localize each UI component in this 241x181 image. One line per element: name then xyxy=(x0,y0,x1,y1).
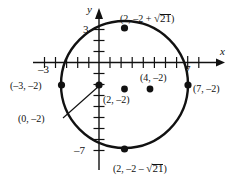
radical-21-top: √21 xyxy=(154,13,171,24)
label-bottom-vertex-suffix: ) xyxy=(163,163,166,174)
point-interior xyxy=(147,86,154,93)
point-bottom-vertex xyxy=(121,145,128,152)
x-tick-label-7: 7 xyxy=(185,64,191,75)
y-tick-label-3: 3 xyxy=(83,24,89,35)
leader-line xyxy=(63,86,99,118)
label-top-vertex: (2, –2 + √21) xyxy=(120,13,174,24)
radical-21-bottom: √21 xyxy=(146,163,163,174)
label-right-vertex: (7, –2) xyxy=(193,84,220,94)
point-left-vertex xyxy=(58,81,65,88)
label-bottom-vertex-prefix: (2, –2 – xyxy=(113,163,146,174)
label-bottom-vertex: (2, –2 – √21) xyxy=(113,163,167,174)
label-center: (2, –2) xyxy=(103,95,130,105)
label-y-intercept: (0, –2) xyxy=(18,114,45,124)
point-y-intercept xyxy=(95,81,102,88)
point-right-vertex xyxy=(184,81,191,88)
x-axis-label: x xyxy=(220,46,225,57)
point-center xyxy=(121,86,128,93)
y-axis-label: y xyxy=(87,4,92,15)
x-axis xyxy=(33,56,225,69)
label-interior: (4, –2) xyxy=(140,73,167,83)
y-tick-label-neg7: –7 xyxy=(74,145,85,156)
x-tick-label-neg3: –3 xyxy=(38,64,49,75)
circle-curve xyxy=(61,21,188,148)
label-top-vertex-suffix: ) xyxy=(171,13,174,24)
point-top-vertex xyxy=(121,24,128,31)
label-left-vertex: (–3, –2) xyxy=(10,81,42,91)
label-top-vertex-prefix: (2, –2 + xyxy=(120,13,154,24)
